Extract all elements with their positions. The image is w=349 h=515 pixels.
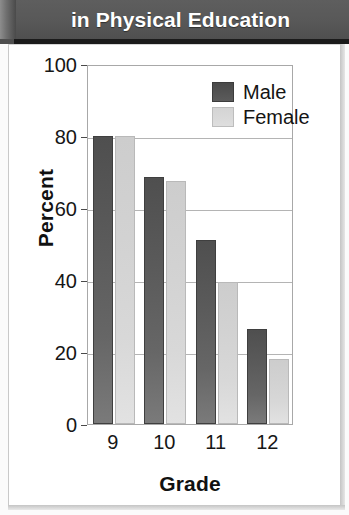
legend-label-male: Male [243, 82, 286, 102]
legend-swatch-male-icon [212, 82, 234, 102]
bar-female-grade-12 [269, 359, 289, 424]
bar-male-grade-12 [247, 329, 267, 424]
y-tick-label: 20 [19, 343, 77, 363]
y-tick-label: 0 [19, 415, 77, 435]
plot-area: Male Female [87, 65, 293, 425]
bar-female-grade-10 [166, 181, 186, 424]
y-tick-label: 40 [19, 271, 77, 291]
title-banner: in Physical Education [0, 0, 349, 39]
chart-title: in Physical Education [59, 8, 290, 32]
legend: Male Female [212, 82, 310, 127]
bar-female-grade-9 [115, 136, 135, 424]
y-tick-label: 60 [19, 199, 77, 219]
card-bottom-bevel [8, 505, 345, 510]
y-tick-label: 100 [19, 55, 77, 75]
x-axis-title: Grade [87, 472, 293, 496]
bar-male-grade-11 [196, 240, 216, 424]
y-tick-mark [81, 425, 87, 426]
bar-female-grade-11 [218, 282, 238, 424]
card-right-bevel [340, 44, 345, 509]
bar-male-grade-10 [144, 177, 164, 424]
legend-label-female: Female [243, 107, 310, 127]
y-tick-label: 80 [19, 127, 77, 147]
bar-male-grade-9 [93, 136, 113, 424]
banner-left-accent-strip [0, 0, 16, 39]
legend-item-male: Male [212, 82, 310, 102]
legend-swatch-female-icon [212, 107, 234, 127]
chart-page: in Physical Education Percent 0204060801… [0, 0, 349, 515]
legend-item-female: Female [212, 107, 310, 127]
x-tick-label-12: 12 [237, 432, 297, 452]
